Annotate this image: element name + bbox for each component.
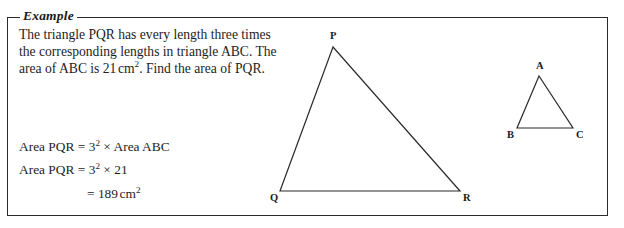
- working-line-1-exponent: 2: [95, 138, 100, 148]
- vertex-label-c: C: [576, 130, 584, 141]
- working-line-1: Area PQR = 32 × Area ABC: [19, 139, 170, 155]
- example-legend: Example: [20, 8, 77, 24]
- working-line-3-equals: =: [87, 186, 95, 201]
- problem-line-3-unit: cm: [118, 61, 135, 76]
- problem-line-2: the corresponding lengths in triangle AB…: [19, 43, 277, 60]
- vertex-label-q: Q: [270, 193, 278, 204]
- example-legend-label: Example: [23, 8, 74, 24]
- working-line-3-unit: cm: [120, 186, 136, 201]
- working-line-3: = 189cm2: [87, 186, 140, 202]
- working-line-2-times: ×: [103, 162, 111, 177]
- problem-line-3: area of ABC is 21cm2. Find the area of P…: [19, 60, 277, 77]
- working-line-3-unit-exponent: 2: [136, 185, 141, 195]
- vertex-label-p: P: [330, 31, 336, 42]
- working-line-1-rhs: Area ABC: [114, 139, 170, 154]
- problem-statement: The triangle PQR has every length three …: [19, 26, 277, 78]
- working-line-1-equals: =: [78, 139, 86, 154]
- working-line-2-exponent: 2: [95, 161, 100, 171]
- working-line-1-lhs: Area PQR: [19, 139, 74, 154]
- working-line-2: Area PQR = 32 × 21: [19, 162, 128, 178]
- working-line-2-lhs: Area PQR: [19, 162, 74, 177]
- vertex-label-r: R: [463, 193, 471, 204]
- vertex-label-a: A: [536, 61, 544, 72]
- problem-line-1: The triangle PQR has every length three …: [19, 26, 277, 43]
- working-line-2-rhs: 21: [114, 162, 127, 177]
- problem-line-3-suffix: . Find the area of PQR.: [139, 61, 265, 76]
- working-line-3-value: 189: [98, 186, 118, 201]
- working-line-2-equals: =: [78, 162, 86, 177]
- problem-line-3-prefix: area of ABC is 21: [19, 61, 116, 76]
- working-line-1-times: ×: [103, 139, 111, 154]
- vertex-label-b: B: [507, 130, 514, 141]
